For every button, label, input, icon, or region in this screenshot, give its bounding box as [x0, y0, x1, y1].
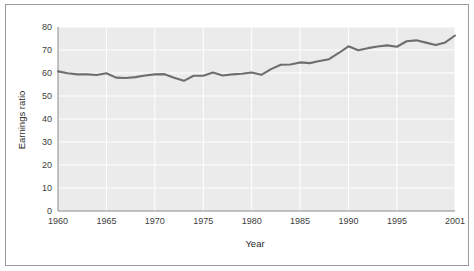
y-tick-label: 80 — [42, 22, 52, 32]
y-tick-label: 10 — [42, 183, 52, 193]
x-tick-label: 2001 — [445, 216, 465, 226]
x-tick-label: 1960 — [48, 216, 68, 226]
x-tick-label: 1990 — [338, 216, 358, 226]
x-tick-label: 1980 — [242, 216, 262, 226]
y-axis-title: Earnings ratio — [16, 91, 27, 150]
y-tick-label: 30 — [42, 137, 52, 147]
chart-svg: 01020304050607080 1960196519701975198019… — [0, 0, 474, 271]
x-axis-title: Year — [245, 238, 264, 249]
x-tick-label: 1970 — [145, 216, 165, 226]
y-tick-label: 60 — [42, 68, 52, 78]
x-tick-label: 1995 — [387, 216, 407, 226]
line-chart: 01020304050607080 1960196519701975198019… — [0, 0, 474, 271]
y-tick-label: 0 — [47, 206, 52, 216]
chart-page: 01020304050607080 1960196519701975198019… — [0, 0, 474, 271]
y-tick-label: 20 — [42, 160, 52, 170]
x-tick-label: 1965 — [96, 216, 116, 226]
y-tick-label: 70 — [42, 45, 52, 55]
y-tick-label: 40 — [42, 114, 52, 124]
x-axis-tick-labels: 196019651970197519801985199019952001 — [48, 216, 465, 226]
y-axis-tick-labels: 01020304050607080 — [42, 22, 52, 216]
x-tick-label: 1975 — [193, 216, 213, 226]
x-tick-label: 1985 — [290, 216, 310, 226]
y-tick-label: 50 — [42, 91, 52, 101]
